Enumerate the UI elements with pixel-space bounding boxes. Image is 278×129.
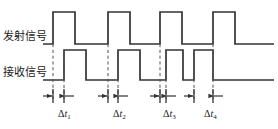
receive-signal-label: 接收信号	[3, 66, 47, 79]
waveform-canvas	[0, 0, 278, 129]
interval-label-dt2: Δt2	[113, 108, 126, 121]
dt2-sub: 2	[122, 113, 126, 121]
dt3-sub: 3	[172, 113, 176, 121]
dashed-guides-receive	[64, 50, 194, 99]
dt1-sub: 1	[67, 113, 71, 121]
interval-label-dt1: Δt1	[58, 108, 71, 121]
receive-waveform	[43, 50, 274, 80]
dt4-sub: 4	[213, 113, 217, 121]
interval-label-dt3: Δt3	[163, 108, 176, 121]
transmit-waveform	[43, 12, 274, 44]
dashed-guides-transmit	[53, 44, 213, 99]
interval-label-dt4: Δt4	[204, 108, 217, 121]
transmit-signal-label: 发射信号	[3, 30, 47, 43]
timing-diagram-figure: 发射信号 接收信号 Δt1 Δt2 Δt3 Δt4	[0, 0, 278, 129]
